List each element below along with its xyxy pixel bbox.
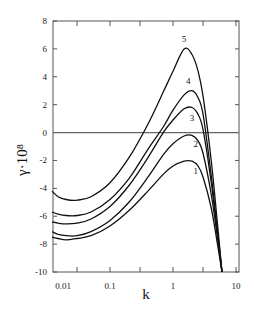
curve-3: [52, 107, 222, 272]
y-tick-label: -10: [35, 267, 47, 277]
y-axis-title: γ·10⁸: [14, 144, 30, 177]
curve-label-5: 5: [182, 34, 187, 44]
chart: 86420-2-4-6-8-10 0.010.1110 12345 k γ·10…: [0, 0, 254, 316]
y-tick-label: -4: [40, 183, 48, 193]
series-group: 12345: [52, 34, 222, 272]
y-tick-label: 4: [43, 72, 48, 82]
x-axis-title: k: [142, 286, 150, 302]
x-tick-label: 1: [171, 281, 176, 291]
curve-label-3: 3: [190, 113, 195, 123]
y-tick-label: 6: [43, 44, 48, 54]
y-tick-label: 2: [43, 100, 48, 110]
y-tick-label: 0: [43, 128, 48, 138]
x-tick-label: 0.01: [55, 281, 71, 291]
y-axis: 86420-2-4-6-8-10: [35, 16, 239, 277]
x-tick-label: 10: [232, 281, 242, 291]
y-tick-label: -8: [40, 239, 48, 249]
curve-label-2: 2: [194, 139, 199, 149]
curve-label-1: 1: [194, 166, 199, 176]
curve-label-4: 4: [186, 76, 191, 86]
x-axis: 0.010.1110: [55, 21, 241, 291]
curve-1: [52, 161, 222, 273]
y-tick-label: 8: [43, 16, 48, 26]
curve-4: [52, 91, 222, 272]
y-tick-label: -6: [40, 211, 48, 221]
x-tick-label: 0.1: [104, 281, 115, 291]
y-tick-label: -2: [40, 155, 48, 165]
